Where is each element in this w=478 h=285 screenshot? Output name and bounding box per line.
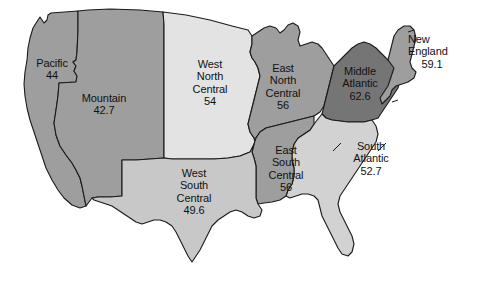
label-pacific-value: 44 — [24, 69, 80, 81]
label-west-north-central-line2: North — [180, 70, 240, 82]
label-pacific-line1: Pacific — [24, 57, 80, 69]
label-mountain-value: 42.7 — [64, 104, 144, 116]
label-west-north-central-line1: West — [180, 58, 240, 70]
label-middle-atlantic-line2: Atlantic — [330, 77, 390, 89]
label-west-south-central-value: 49.6 — [162, 204, 226, 216]
label-middle-atlantic-value: 62.6 — [330, 90, 390, 102]
label-south-atlantic-value: 52.7 — [340, 165, 402, 177]
label-pacific: Pacific 44 — [24, 57, 80, 82]
leader-line-middle-atlantic — [392, 100, 398, 102]
label-new-england-line1: New — [408, 33, 470, 45]
label-east-south-central-value: 56 — [258, 181, 314, 193]
label-middle-atlantic: Middle Atlantic 62.6 — [330, 65, 390, 102]
label-east-north-central: East North Central 56 — [255, 62, 311, 112]
label-middle-atlantic-line1: Middle — [330, 65, 390, 77]
label-south-atlantic-line1: South — [340, 140, 402, 152]
label-west-south-central-line3: Central — [162, 192, 226, 204]
label-east-north-central-line3: Central — [255, 87, 311, 99]
label-west-south-central-line1: West — [162, 167, 226, 179]
label-west-north-central: West North Central 54 — [180, 58, 240, 108]
label-west-north-central-value: 54 — [180, 95, 240, 107]
label-east-north-central-line2: North — [255, 74, 311, 86]
label-west-north-central-line3: Central — [180, 83, 240, 95]
label-new-england-value: 59.1 — [408, 58, 470, 70]
label-new-england: New England 59.1 — [408, 33, 470, 70]
label-mountain-line1: Mountain — [64, 92, 144, 104]
label-east-south-central-line1: East — [258, 144, 314, 156]
label-west-south-central-line2: South — [162, 179, 226, 191]
label-mountain: Mountain 42.7 — [64, 92, 144, 117]
label-east-north-central-line1: East — [255, 62, 311, 74]
label-south-atlantic: South Atlantic 52.7 — [340, 140, 402, 177]
us-census-division-map: Pacific 44 Mountain 42.7 West North Cent… — [0, 0, 478, 285]
label-east-south-central-line3: Central — [258, 169, 314, 181]
label-south-atlantic-line2: Atlantic — [340, 152, 402, 164]
label-east-south-central-line2: South — [258, 156, 314, 168]
label-west-south-central: West South Central 49.6 — [162, 167, 226, 217]
label-new-england-line2: England — [408, 45, 470, 57]
us-map-svg — [0, 0, 478, 285]
label-east-south-central: East South Central 56 — [258, 144, 314, 194]
label-east-north-central-value: 56 — [255, 99, 311, 111]
